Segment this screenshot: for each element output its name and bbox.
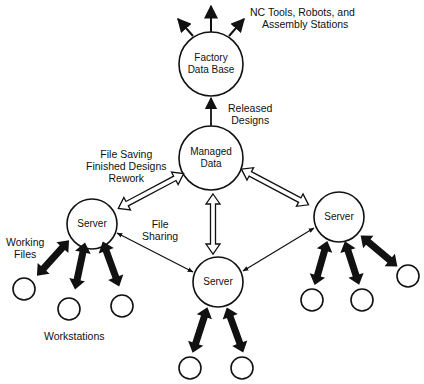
server-right-label: Server xyxy=(324,211,353,223)
workstation-node xyxy=(397,265,419,287)
working-files-line1: Working xyxy=(6,236,44,248)
nc-tools-line1: NC Tools, Robots, and xyxy=(250,6,355,18)
server-left-label: Server xyxy=(77,218,106,230)
released-line1: Released xyxy=(228,102,272,114)
nc-tools-label: NC Tools, Robots, and Assembly Stations xyxy=(250,6,355,30)
file-sharing-line1: File xyxy=(142,218,178,230)
file-saving-line3: Rework xyxy=(86,172,167,184)
managed-label-line2: Data xyxy=(190,158,232,170)
network-diagram: Factory Data Base Managed Data Server Se… xyxy=(0,0,424,384)
working-files-line2: Files xyxy=(6,248,44,260)
nc-tools-line2: Assembly Stations xyxy=(250,18,355,30)
workstation-node xyxy=(58,298,80,320)
managed-label-line1: Managed xyxy=(190,146,232,158)
factory-data-base-label: Factory Data Base xyxy=(188,52,235,76)
workstation-node xyxy=(179,357,201,379)
workstation-node xyxy=(301,289,323,311)
workstation-node xyxy=(351,289,373,311)
output-arrows xyxy=(178,6,244,36)
workstations-label: Workstations xyxy=(44,330,105,342)
server-center-label: Server xyxy=(203,276,232,288)
workstation-node xyxy=(231,357,253,379)
factory-label-line2: Data Base xyxy=(188,64,235,76)
workstation-node xyxy=(111,295,133,317)
file-sharing-label: File Sharing xyxy=(142,218,178,242)
managed-data-label: Managed Data xyxy=(190,146,232,170)
file-saving-label: File Saving Finished Designs Rework xyxy=(86,148,167,184)
released-line2: Designs xyxy=(228,114,272,126)
working-files-label: Working Files xyxy=(6,236,44,260)
file-saving-line2: Finished Designs xyxy=(86,160,167,172)
file-sharing-line2: Sharing xyxy=(142,230,178,242)
factory-label-line1: Factory xyxy=(188,52,235,64)
released-designs-label: Released Designs xyxy=(228,102,272,126)
file-saving-line1: File Saving xyxy=(86,148,167,160)
workstation-node xyxy=(13,278,35,300)
